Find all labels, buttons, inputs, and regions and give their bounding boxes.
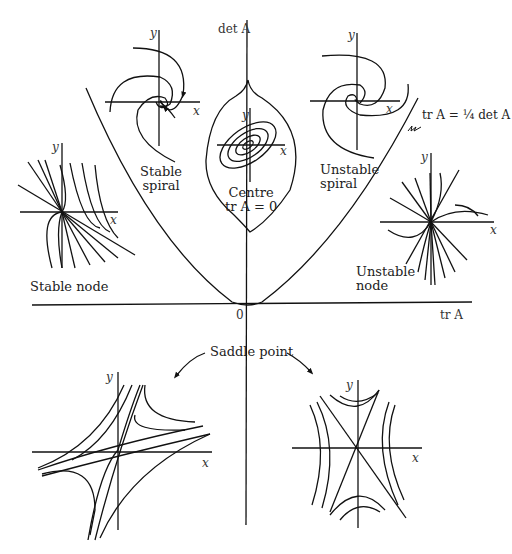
unstable-spiral-y-label: y — [348, 28, 355, 42]
det-axis-label: det A — [218, 22, 250, 36]
stable-node-y-label: y — [52, 140, 59, 154]
origin-label: 0 — [236, 308, 244, 322]
stable-spiral-portrait — [105, 30, 200, 162]
parabola-label: tr A = ¼ det A — [422, 108, 510, 122]
unstable-node-y-label: y — [421, 150, 428, 164]
stable-spiral-label: Stable spiral — [140, 165, 182, 193]
saddle-point-portrait-right — [292, 380, 422, 528]
saddle-left-y-label: y — [106, 370, 113, 384]
unstable-node-x-label: x — [490, 223, 497, 237]
centre-label: Centre tr A = 0 — [225, 186, 277, 214]
saddle-point-portrait-left — [32, 372, 212, 540]
tr-axis-label: tr A — [440, 308, 463, 322]
stable-spiral-y-label: y — [150, 26, 157, 40]
stable-node-x-label: x — [110, 213, 117, 227]
centre-x-label: x — [280, 144, 287, 158]
unstable-spiral-label: Unstable spiral — [320, 163, 379, 191]
unstable-node-label: Unstable node — [356, 265, 415, 293]
centre-y-label: y — [242, 108, 249, 122]
stable-spiral-x-label: x — [193, 104, 200, 118]
saddle-right-y-label: y — [346, 378, 353, 392]
stable-node-portrait — [18, 143, 135, 268]
saddle-point-label: Saddle point — [210, 345, 293, 359]
diagram-canvas — [0, 0, 512, 554]
unstable-spiral-portrait — [310, 33, 408, 158]
saddle-right-x-label: x — [412, 451, 419, 465]
unstable-spiral-x-label: x — [386, 102, 393, 116]
det-axis — [246, 20, 247, 525]
saddle-left-x-label: x — [202, 456, 209, 470]
stable-node-label: Stable node — [30, 280, 108, 294]
